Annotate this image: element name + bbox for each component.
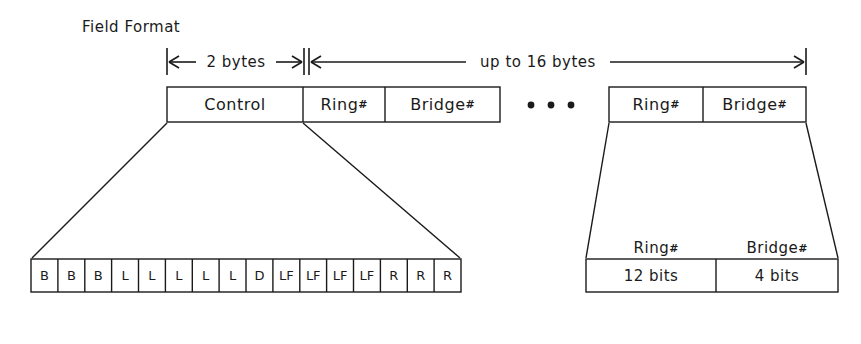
bit-cell: B	[31, 260, 58, 291]
bit-cell: L	[192, 260, 219, 291]
bit-cell: R	[434, 260, 461, 291]
ellipsis-dots	[528, 102, 575, 109]
bit-cell: B	[58, 260, 85, 291]
hash-symbol: #	[777, 98, 786, 111]
bit-cell: R	[380, 260, 407, 291]
control-expansion-leader-lines	[32, 123, 460, 258]
field-control: Control	[167, 88, 303, 121]
hash-symbol: #	[669, 242, 678, 255]
hash-symbol: #	[798, 242, 807, 255]
bit-cell: L	[112, 260, 139, 291]
field-bridge-number-1: Bridge #	[385, 88, 500, 121]
hash-symbol: #	[465, 98, 474, 111]
route-bits-cell-bridge: 4 bits	[716, 260, 838, 291]
hash-symbol: #	[358, 98, 367, 111]
bit-cell: LF	[300, 260, 327, 291]
bit-cell: L	[139, 260, 166, 291]
bit-cell: LF	[273, 260, 300, 291]
field-ring-number-n: Ring #	[609, 88, 703, 121]
field-format-diagram: Field Format	[0, 0, 861, 344]
field-ring-number-1: Ring #	[303, 88, 385, 121]
bit-cell: D	[246, 260, 273, 291]
field-bridge-number-n: Bridge #	[703, 88, 806, 121]
bit-cell: L	[219, 260, 246, 291]
route-expansion-header-ring: Ring #	[596, 238, 716, 258]
dimension-label-2-bytes: 2 bytes	[196, 52, 276, 72]
dimension-label-up-to-16-bytes: up to 16 bytes	[466, 52, 610, 72]
bit-cell: L	[165, 260, 192, 291]
bit-cell: R	[407, 260, 434, 291]
hash-symbol: #	[670, 98, 679, 111]
route-bits-cell-ring: 12 bits	[586, 260, 716, 291]
diagram-vector-layer	[0, 0, 861, 344]
bit-cell: LF	[327, 260, 354, 291]
bit-cell: LF	[354, 260, 381, 291]
bit-cell: B	[85, 260, 112, 291]
route-expansion-header-bridge: Bridge #	[716, 238, 838, 258]
